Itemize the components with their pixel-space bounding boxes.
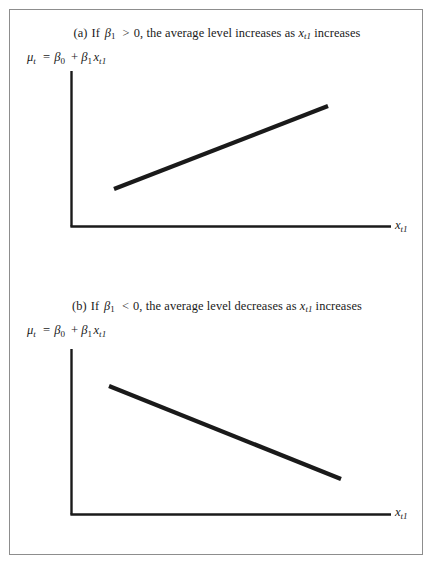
figure-panel-b: (b)If β1 <0, the average level decreases… — [10, 283, 424, 556]
panel-a-x-axis-x-subscript: t1 — [401, 224, 408, 234]
panel-a-regression-line — [114, 106, 328, 189]
panel-a-x-axis-label: xt1 — [395, 218, 408, 234]
panel-b-x-axis-label: xt1 — [395, 505, 408, 521]
panel-b-plot — [10, 283, 424, 556]
panel-b-x-axis-x-subscript: t1 — [401, 511, 408, 521]
panel-a-plot — [10, 10, 424, 283]
figure-frame: (a)If β1 >0, the average level increases… — [9, 9, 423, 555]
panel-b-regression-line — [109, 386, 341, 479]
figure-panel-a: (a)If β1 >0, the average level increases… — [10, 10, 424, 283]
